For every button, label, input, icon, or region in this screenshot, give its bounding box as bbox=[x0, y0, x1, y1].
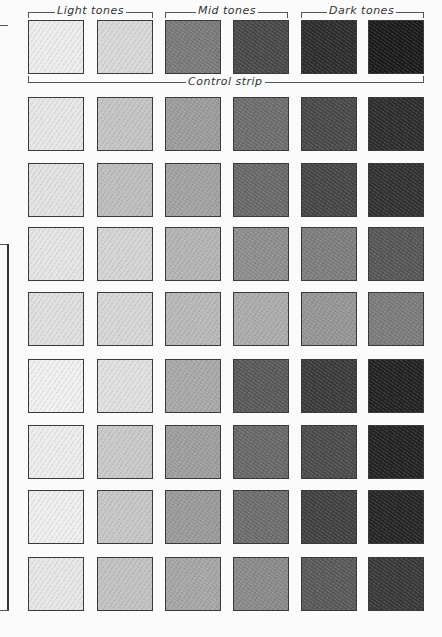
tone-swatch bbox=[28, 97, 84, 151]
tone-swatch bbox=[301, 20, 357, 74]
tone-swatch bbox=[233, 163, 289, 217]
tone-swatch bbox=[233, 557, 289, 611]
tone-swatch bbox=[368, 20, 424, 74]
tone-swatch bbox=[97, 163, 153, 217]
tone-swatch bbox=[97, 97, 153, 151]
tone-swatch bbox=[28, 425, 84, 479]
tone-swatch bbox=[28, 359, 84, 413]
tone-swatch bbox=[165, 163, 221, 217]
tone-swatch bbox=[233, 97, 289, 151]
tone-swatch bbox=[97, 425, 153, 479]
tone-swatch bbox=[97, 557, 153, 611]
tone-swatch bbox=[233, 425, 289, 479]
tone-swatch bbox=[301, 97, 357, 151]
tone-swatch bbox=[233, 359, 289, 413]
tone-swatch bbox=[368, 227, 424, 281]
tone-swatch bbox=[301, 227, 357, 281]
tone-swatch bbox=[165, 97, 221, 151]
tone-swatch bbox=[301, 359, 357, 413]
tone-swatch bbox=[368, 490, 424, 544]
tone-swatch bbox=[301, 557, 357, 611]
tone-swatch bbox=[97, 490, 153, 544]
tone-swatch bbox=[97, 227, 153, 281]
mid-tones-label: Mid tones bbox=[196, 5, 258, 17]
tone-swatch bbox=[28, 292, 84, 346]
light-tones-label: Light tones bbox=[55, 5, 126, 17]
tone-swatch bbox=[368, 425, 424, 479]
tone-swatch bbox=[233, 227, 289, 281]
left-margin-tick-top bbox=[0, 25, 8, 26]
tone-swatch bbox=[301, 292, 357, 346]
tone-swatch bbox=[368, 359, 424, 413]
dark-tones-label: Dark tones bbox=[327, 5, 396, 17]
tone-swatch bbox=[28, 20, 84, 74]
tone-swatch bbox=[368, 557, 424, 611]
tone-swatch bbox=[28, 163, 84, 217]
tone-swatch bbox=[165, 557, 221, 611]
tone-swatch bbox=[97, 292, 153, 346]
tone-swatch bbox=[368, 163, 424, 217]
tone-swatch bbox=[28, 557, 84, 611]
tone-swatch bbox=[28, 490, 84, 544]
tone-swatch bbox=[165, 292, 221, 346]
tone-swatch bbox=[97, 20, 153, 74]
tone-swatch bbox=[165, 227, 221, 281]
control-strip-label: Control strip bbox=[186, 76, 265, 88]
tone-swatch bbox=[301, 490, 357, 544]
tone-swatch bbox=[165, 359, 221, 413]
tone-swatch bbox=[97, 359, 153, 413]
tone-swatch bbox=[301, 163, 357, 217]
tone-swatch bbox=[165, 20, 221, 74]
tone-swatch bbox=[368, 97, 424, 151]
tone-swatch bbox=[301, 425, 357, 479]
tone-swatch bbox=[233, 20, 289, 74]
tone-swatch bbox=[28, 227, 84, 281]
tone-swatch bbox=[165, 490, 221, 544]
tone-swatch bbox=[233, 490, 289, 544]
tone-swatch bbox=[368, 292, 424, 346]
tone-swatch bbox=[165, 425, 221, 479]
tone-swatch bbox=[233, 292, 289, 346]
